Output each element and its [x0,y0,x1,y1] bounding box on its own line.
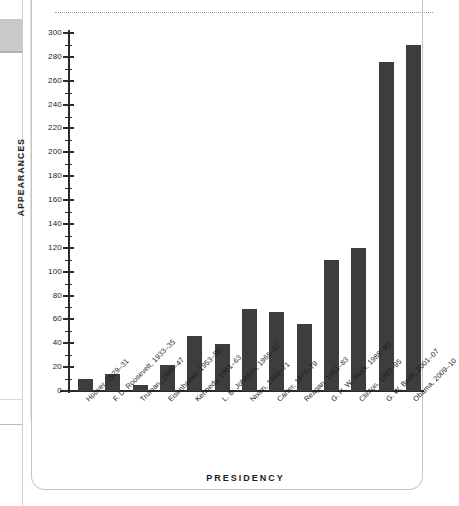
y-tick-label: 0 [34,386,62,395]
y-tick-label: 60 [34,314,62,323]
y-tick-label: 20 [34,362,62,371]
y-tick-label: 100 [34,267,62,276]
y-tick-label-wrap: 0 [32,386,62,396]
y-axis-title: APPEARANCES [16,117,26,237]
y-tick-label: 280 [34,52,62,61]
y-tick-label: 120 [34,243,62,252]
y-tick-label-wrap: 40 [32,338,62,348]
y-tick-label-wrap: 100 [32,267,62,277]
plot-area [68,33,423,391]
y-tick-label-wrap: 220 [32,123,62,133]
y-tick-label-wrap: 120 [32,243,62,253]
bar [406,45,421,391]
y-tick-label-wrap: 280 [32,52,62,62]
y-tick-label: 80 [34,291,62,300]
y-tick-label: 220 [34,123,62,132]
y-tick-label-wrap: 180 [32,171,62,181]
y-tick-label: 160 [34,195,62,204]
y-tick-label-wrap: 140 [32,219,62,229]
y-tick-label-wrap: 300 [32,28,62,38]
y-tick-label-wrap: 240 [32,100,62,110]
y-tick-label: 40 [34,338,62,347]
y-tick-label-wrap: 80 [32,291,62,301]
y-tick-label: 180 [34,171,62,180]
y-tick-label: 140 [34,219,62,228]
y-tick-label: 200 [34,147,62,156]
y-tick-label-wrap: 260 [32,76,62,86]
y-tick-label: 240 [34,100,62,109]
y-tick-label-wrap: 160 [32,195,62,205]
y-tick-label-wrap: 20 [32,362,62,372]
y-tick-label-wrap: 60 [32,314,62,324]
y-tick-label: 300 [34,28,62,37]
y-tick-label: 260 [34,76,62,85]
x-axis-title: PRESIDENCY [68,473,423,483]
y-tick-label-wrap: 200 [32,147,62,157]
